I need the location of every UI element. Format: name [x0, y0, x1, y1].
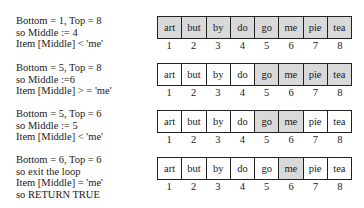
array-cell-in-range: go: [255, 111, 279, 132]
step-line: Bottom = 5, Top = 8: [16, 62, 112, 74]
step-line: so exit the loop: [16, 166, 103, 178]
index-label: 1: [157, 40, 181, 51]
index-label: 2: [181, 87, 205, 98]
index-row-1: 12345678: [157, 40, 352, 51]
array-cell: art: [158, 158, 182, 179]
step-line: so RETURN TRUE: [16, 189, 103, 201]
index-label: 1: [157, 181, 181, 192]
step-line: Bottom = 6, Top = 6: [16, 154, 103, 166]
array-cell: by: [207, 64, 231, 85]
array-cell: by: [207, 111, 231, 132]
index-label: 4: [230, 181, 254, 192]
array-cell-in-range: tea: [328, 64, 351, 85]
index-label: 3: [206, 181, 230, 192]
array-cell-in-range: by: [207, 17, 231, 38]
index-label: 6: [279, 181, 303, 192]
array-cell: do: [231, 158, 255, 179]
array-cell: pie: [304, 111, 328, 132]
array-cell-in-range: tea: [328, 17, 351, 38]
index-label: 4: [230, 134, 254, 145]
array-row-3: artbutbydogomepietea: [157, 110, 352, 133]
step-line: Bottom = 5, Top = 6: [16, 108, 103, 120]
index-label: 6: [279, 40, 303, 51]
index-label: 2: [181, 134, 205, 145]
step-line: so Middle :=6: [16, 74, 112, 86]
index-label: 7: [303, 87, 327, 98]
array-cell: but: [182, 64, 206, 85]
array-cell: art: [158, 111, 182, 132]
index-label: 3: [206, 134, 230, 145]
array-row-2: artbutbydogomepietea: [157, 63, 352, 86]
index-label: 5: [255, 40, 279, 51]
index-row-2: 12345678: [157, 87, 352, 98]
array-cell-in-range: art: [158, 17, 182, 38]
index-row-3: 12345678: [157, 134, 352, 145]
array-cell: pie: [304, 158, 328, 179]
step-description-2: Bottom = 5, Top = 8so Middle :=6Item [Mi…: [16, 62, 112, 97]
step-line: Item [Middle] < 'me': [16, 131, 103, 143]
index-label: 6: [279, 87, 303, 98]
step-line: Item [Middle] > = 'me': [16, 85, 112, 97]
array-cell-in-range: me: [279, 64, 303, 85]
array-cell-in-range: me: [279, 17, 303, 38]
array-cell-in-range: me: [279, 158, 303, 179]
step-line: Bottom = 1, Top = 8: [16, 15, 103, 27]
index-label: 2: [181, 181, 205, 192]
index-label: 5: [255, 181, 279, 192]
index-label: 7: [303, 181, 327, 192]
array-cell-in-range: do: [231, 17, 255, 38]
array-cell: but: [182, 158, 206, 179]
step-line: so Middle := 5: [16, 120, 103, 132]
index-label: 3: [206, 87, 230, 98]
array-cell-in-range: go: [255, 64, 279, 85]
step-line: Item [Middle] < 'me': [16, 38, 103, 50]
index-row-4: 12345678: [157, 181, 352, 192]
index-label: 8: [328, 40, 352, 51]
array-cell: tea: [328, 158, 351, 179]
index-label: 4: [230, 40, 254, 51]
array-cell-in-range: pie: [304, 17, 328, 38]
array-cell-in-range: pie: [304, 64, 328, 85]
array-cell: do: [231, 64, 255, 85]
index-label: 8: [328, 181, 352, 192]
index-label: 7: [303, 40, 327, 51]
index-label: 5: [255, 87, 279, 98]
array-row-1: artbutbydogomepietea: [157, 16, 352, 39]
array-cell: tea: [328, 111, 351, 132]
index-label: 2: [181, 40, 205, 51]
array-cell: art: [158, 64, 182, 85]
array-cell: by: [207, 158, 231, 179]
step-line: so Middle := 4: [16, 27, 103, 39]
array-cell: go: [255, 158, 279, 179]
array-cell-in-range: but: [182, 17, 206, 38]
index-label: 4: [230, 87, 254, 98]
index-label: 1: [157, 134, 181, 145]
step-description-3: Bottom = 5, Top = 6so Middle := 5Item [M…: [16, 108, 103, 143]
step-line: Item [Middle] = 'me': [16, 177, 103, 189]
array-row-4: artbutbydogomepietea: [157, 157, 352, 180]
index-label: 8: [328, 134, 352, 145]
array-cell: do: [231, 111, 255, 132]
array-cell: but: [182, 111, 206, 132]
index-label: 7: [303, 134, 327, 145]
step-description-4: Bottom = 6, Top = 6so exit the loopItem …: [16, 154, 103, 200]
index-label: 6: [279, 134, 303, 145]
array-cell-in-range: go: [255, 17, 279, 38]
array-cell-in-range: me: [279, 111, 303, 132]
index-label: 3: [206, 40, 230, 51]
index-label: 5: [255, 134, 279, 145]
index-label: 1: [157, 87, 181, 98]
index-label: 8: [328, 87, 352, 98]
step-description-1: Bottom = 1, Top = 8so Middle := 4Item [M…: [16, 15, 103, 50]
